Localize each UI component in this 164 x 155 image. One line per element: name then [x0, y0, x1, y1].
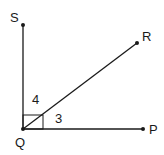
- label-s: S: [10, 10, 19, 25]
- point-r-dot: [135, 41, 139, 45]
- point-q-dot: [21, 127, 25, 131]
- label-r: R: [142, 29, 151, 44]
- label-q: Q: [15, 135, 25, 150]
- geometry-diagram: S R 4 3 Q P: [0, 0, 164, 155]
- label-p: P: [149, 122, 158, 137]
- point-p-dot: [141, 127, 145, 131]
- label-angle-4: 4: [32, 92, 39, 107]
- point-s-dot: [21, 23, 25, 27]
- ray-qr: [23, 43, 137, 129]
- label-angle-3: 3: [55, 111, 62, 126]
